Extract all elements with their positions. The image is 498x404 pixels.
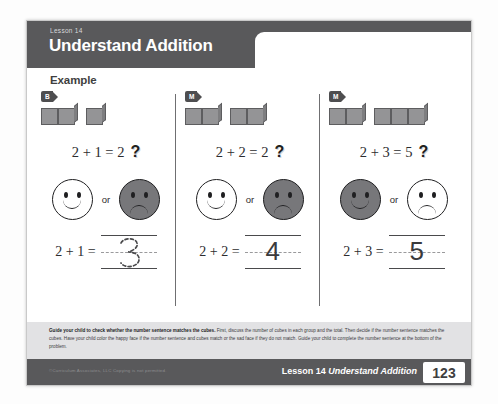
cube-icon xyxy=(86,108,103,125)
face-choice-3: or xyxy=(323,175,465,223)
answer-write-box-1[interactable]: 3 xyxy=(101,233,157,271)
badge-pointer-icon xyxy=(341,92,346,102)
cube-icon xyxy=(247,108,264,125)
cube-icon xyxy=(329,108,346,125)
sad-face-option-2[interactable] xyxy=(263,179,304,220)
scanned-page-background: Lesson 14 Understand Addition Name Examp… xyxy=(0,0,498,404)
answer-row-3: 2 + 3 = 5 xyxy=(323,231,465,275)
eye-icon xyxy=(365,192,369,198)
page-footer-bar: ©Curriculum Associates, LLC Copying is n… xyxy=(27,359,471,385)
written-answer-3: 5 xyxy=(389,231,445,271)
copyright-text: ©Curriculum Associates, LLC Copying is n… xyxy=(49,368,167,373)
cube-group-a-2 xyxy=(185,105,219,125)
worksheet-page: Lesson 14 Understand Addition Name Examp… xyxy=(26,20,472,386)
lesson-kicker: Lesson 14 xyxy=(50,27,83,34)
cube-icon xyxy=(374,108,391,125)
footer-lesson-name: Understand Addition xyxy=(328,366,417,376)
cube-icon xyxy=(391,108,408,125)
cube-row-2 xyxy=(185,105,264,131)
problem-column-2: M 2 + 2 = 2 ? xyxy=(179,91,321,311)
number-sentence-text-2: 2 + 2 = 2 xyxy=(216,144,269,161)
problem-badge-label-1: B xyxy=(41,91,53,102)
answer-write-box-3[interactable]: 5 xyxy=(389,233,445,271)
happy-face-option-2[interactable] xyxy=(196,179,237,220)
cube-row-1 xyxy=(41,105,103,131)
eye-icon xyxy=(419,192,423,198)
cube-group-b-3 xyxy=(374,105,425,125)
frown-mouth-icon xyxy=(130,205,148,214)
number-sentence-3: 2 + 3 = 5 ? xyxy=(323,143,465,161)
smile-mouth-icon xyxy=(63,200,81,209)
cube-icon xyxy=(408,108,425,125)
cube-icon xyxy=(230,108,247,125)
eye-icon xyxy=(288,192,292,198)
eye-icon xyxy=(221,192,225,198)
question-mark-icon: ? xyxy=(130,143,140,161)
number-sentence-text-3: 2 + 3 = 5 xyxy=(360,144,413,161)
problem-badge-1: B xyxy=(41,91,58,102)
problem-column-1: B 2 + 1 = 2 ? xyxy=(35,91,177,311)
eye-icon xyxy=(144,192,148,198)
face-choice-1: or xyxy=(35,175,177,223)
cube-icon xyxy=(58,108,75,125)
or-label-3: or xyxy=(390,194,398,205)
eye-icon xyxy=(77,192,81,198)
cube-icon xyxy=(185,108,202,125)
eye-icon xyxy=(131,192,135,198)
smile-mouth-icon xyxy=(207,200,225,209)
problem-column-3: M 2 + 3 = 5 ? xyxy=(323,91,465,311)
parent-guidance-note: Guide your child to check whether the nu… xyxy=(27,322,471,359)
eye-icon xyxy=(432,192,436,198)
cube-row-3 xyxy=(329,105,425,131)
number-sentence-2: 2 + 2 = 2 ? xyxy=(179,143,321,161)
eye-icon xyxy=(64,192,68,198)
problem-badge-3: M xyxy=(329,91,346,102)
problems-row: B 2 + 1 = 2 ? xyxy=(27,91,471,311)
answer-row-1: 2 + 1 = 3 xyxy=(35,231,177,275)
page-title: Understand Addition xyxy=(49,36,213,56)
parent-guidance-text: Guide your child to check whether the nu… xyxy=(49,327,449,352)
happy-face-option-1[interactable] xyxy=(52,179,93,220)
cube-group-a-3 xyxy=(329,105,363,125)
cube-group-b-2 xyxy=(230,105,264,125)
number-sentence-1: 2 + 1 = 2 ? xyxy=(35,143,177,161)
section-label-example: Example xyxy=(50,74,97,86)
number-sentence-text-1: 2 + 1 = 2 xyxy=(72,144,125,161)
problem-badge-label-3: M xyxy=(329,91,341,102)
page-number: 123 xyxy=(423,362,465,383)
frown-mouth-icon xyxy=(274,205,292,214)
name-field-panel: Name xyxy=(255,32,471,68)
question-mark-icon: ? xyxy=(418,143,428,161)
cube-icon xyxy=(41,108,58,125)
traced-digit-outline-icon xyxy=(117,236,143,270)
sad-face-option-3[interactable] xyxy=(407,179,448,220)
frown-mouth-icon xyxy=(418,205,436,214)
cube-icon xyxy=(202,108,219,125)
or-label-1: or xyxy=(102,194,110,205)
answer-write-box-2[interactable]: 4 xyxy=(245,233,301,271)
answer-prompt-1: 2 + 1 = xyxy=(55,244,95,260)
written-answer-2: 4 xyxy=(245,231,301,271)
answer-prompt-2: 2 + 2 = xyxy=(199,244,239,260)
answer-prompt-3: 2 + 3 = xyxy=(343,244,383,260)
question-mark-icon: ? xyxy=(274,143,284,161)
footer-lesson-prefix: Lesson 14 xyxy=(282,366,329,376)
happy-face-option-3[interactable] xyxy=(340,179,381,220)
page-header-bar: Lesson 14 Understand Addition Name xyxy=(27,21,471,68)
cube-group-b-1 xyxy=(86,105,103,125)
problem-badge-label-2: M xyxy=(185,91,197,102)
badge-pointer-icon xyxy=(53,92,58,102)
eye-icon xyxy=(275,192,279,198)
footer-lesson-title: Lesson 14 Understand Addition xyxy=(282,366,417,376)
problem-badge-2: M xyxy=(185,91,202,102)
face-choice-2: or xyxy=(179,175,321,223)
eye-icon xyxy=(208,192,212,198)
eye-icon xyxy=(352,192,356,198)
badge-pointer-icon xyxy=(197,92,202,102)
or-label-2: or xyxy=(246,194,254,205)
sad-face-option-1[interactable] xyxy=(119,179,160,220)
smile-mouth-icon xyxy=(351,200,369,209)
answer-row-2: 2 + 2 = 4 xyxy=(179,231,321,275)
cube-group-a-1 xyxy=(41,105,75,125)
parent-guidance-lead: Guide your child to check whether the nu… xyxy=(49,328,215,333)
